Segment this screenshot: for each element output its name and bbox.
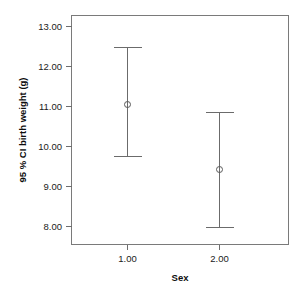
y-tick-label: 8.00: [44, 221, 63, 232]
x-axis-title: Sex: [172, 272, 190, 283]
y-tick-label: 10.00: [38, 141, 62, 152]
y-tick-label: 11.00: [39, 101, 62, 112]
y-axis-title: 95 % CI birth weight (g): [17, 77, 28, 182]
y-tick-label: 12.00: [38, 61, 62, 72]
x-tick-label: 2.00: [210, 253, 229, 264]
chart-container: 13.00 12.00 11.00 10.00 9.00 8.00 1.00 2…: [0, 0, 306, 291]
y-tick-label: 13.00: [38, 21, 62, 32]
y-tick-label: 9.00: [44, 181, 63, 192]
x-tick-label: 1.00: [118, 253, 137, 264]
ci-error-bar-plot: 13.00 12.00 11.00 10.00 9.00 8.00 1.00 2…: [0, 0, 306, 291]
